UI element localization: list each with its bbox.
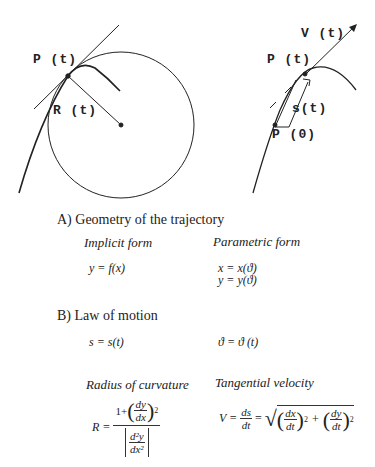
implicit-equation: y = f(x) bbox=[89, 261, 125, 276]
frac-d2y: d²y bbox=[129, 430, 145, 443]
parametric-heading: Parametric form bbox=[213, 234, 300, 250]
plus-sign: + bbox=[312, 412, 319, 427]
frac-dt-3: dt bbox=[332, 420, 341, 432]
radius-formula: R = 1+ ( dydx ) 2 d²ydx² bbox=[92, 398, 160, 457]
label-v-t: V (t) bbox=[301, 26, 345, 41]
parametric-eq-y: y = y(ϑ) bbox=[218, 273, 257, 288]
label-s-t: s(t) bbox=[292, 101, 327, 116]
implicit-heading: Implicit form bbox=[84, 235, 152, 251]
label-p-0: P (0) bbox=[272, 127, 316, 142]
frac-dx: dx bbox=[135, 411, 145, 423]
section-a-title: A) Geometry of the trajectory bbox=[57, 212, 224, 228]
velocity-heading: Tangential velocity bbox=[215, 375, 314, 391]
left-figure bbox=[19, 25, 194, 198]
parameter-equation: ϑ = ϑ (t) bbox=[218, 335, 258, 350]
point-p bbox=[66, 74, 70, 78]
frac-dy: dy bbox=[134, 398, 146, 411]
arc-length-equation: s = s(t) bbox=[89, 335, 124, 350]
label-p-t-right: P (t) bbox=[267, 52, 311, 67]
sqrt-sign: √ bbox=[265, 408, 277, 430]
exp-2: 2 bbox=[154, 406, 158, 415]
frac-ds: ds bbox=[240, 406, 252, 419]
label-r-t: R (t) bbox=[53, 103, 97, 118]
circle-center bbox=[119, 123, 123, 127]
point-p-t bbox=[303, 72, 307, 76]
trajectory-curve bbox=[19, 65, 120, 193]
frac-dy-v: dy bbox=[330, 407, 342, 420]
velocity-equals: = bbox=[255, 411, 262, 426]
frac-dx2: dx² bbox=[130, 443, 144, 455]
velocity-lhs: V = bbox=[219, 411, 237, 426]
radius-heading: Radius of curvature bbox=[86, 377, 189, 393]
radius-lhs: R = bbox=[92, 420, 110, 435]
tangent-dash-1 bbox=[270, 102, 276, 108]
frac-dt-2: dt bbox=[286, 420, 295, 432]
frac-dx-v: dx bbox=[284, 407, 296, 420]
exp-2-a: 2 bbox=[304, 415, 308, 424]
radius-one-plus: 1+ bbox=[115, 405, 127, 417]
label-p-t-left: P (t) bbox=[33, 52, 77, 67]
section-b-title: B) Law of motion bbox=[57, 308, 158, 324]
velocity-formula: V = dsdt = √ ( dxdt ) 2 + ( dydt ) 2 bbox=[219, 405, 354, 432]
frac-dt-1: dt bbox=[242, 419, 251, 431]
exp-2-b: 2 bbox=[350, 415, 354, 424]
